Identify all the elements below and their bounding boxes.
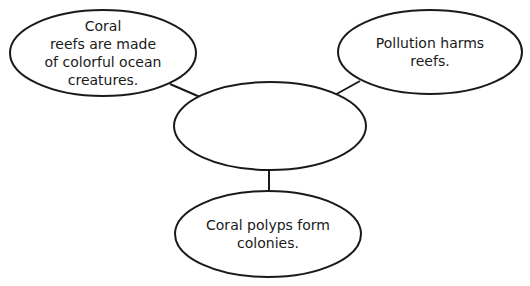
node-bottom-text: Coral polyps form colonies.	[183, 216, 353, 252]
node-top-left-text: Coral reefs are made of colorful ocean c…	[20, 17, 186, 89]
node-top-right-text: Pollution harms reefs.	[345, 34, 515, 70]
center-node-ellipse[interactable]	[174, 82, 366, 170]
